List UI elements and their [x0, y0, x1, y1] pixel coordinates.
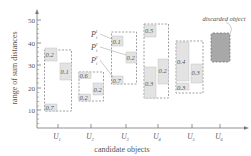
u1-instance-1-prob: 0.2 — [46, 51, 55, 58]
x-tick-u2: U2 — [86, 132, 94, 142]
x-tick-u4: U4 — [153, 132, 161, 142]
u4-instance-1-prob: 0.5 — [145, 27, 154, 34]
y-tick-20: 20 — [28, 85, 36, 93]
p-label-3: Pi3 — [90, 55, 98, 66]
x-tick-u5: U5 — [187, 132, 195, 142]
object-u6-discarded: discarded object — [203, 15, 246, 62]
u2-instance-2-prob: 0.2 — [94, 86, 103, 93]
object-u4: 0.5 0.3 0.2 — [144, 24, 169, 98]
x-tick-u3: U3 — [121, 132, 129, 142]
x-tick-u6: U6 — [215, 132, 223, 142]
y-tick-10: 10 — [28, 107, 36, 115]
u5-instance-1-prob: 0.4 — [177, 58, 186, 65]
y-tick-labels: 50 40 30 20 10 — [28, 17, 36, 115]
u5-instance-3-prob: 0.3 — [177, 84, 186, 91]
diagram-canvas: 50 40 30 20 10 range of sum distances U1… — [0, 0, 251, 156]
u3-instance-2-prob: 0.2 — [127, 54, 136, 61]
y-axis — [35, 9, 41, 128]
discarded-annotation: discarded object — [203, 15, 246, 22]
object-u2: 0.6 0.2 0.2 — [79, 72, 104, 102]
y-tick-30: 30 — [28, 62, 36, 70]
x-axis-label: candidate objects — [94, 145, 149, 154]
object-u3: 0.1 0.2 0.7 Pi1 Pi2 Pi3 — [90, 29, 137, 84]
u4-instance-3-prob: 0.2 — [159, 67, 168, 74]
x-tick-labels: U1 U2 U3 U4 U5 U6 — [53, 132, 223, 142]
u3-instance-3-prob: 0.7 — [113, 77, 122, 84]
u2-instance-1-prob: 0.6 — [80, 72, 89, 79]
instance-labels: Pi1 Pi2 Pi3 — [90, 29, 98, 66]
u3-instance-1-prob: 0.1 — [113, 38, 121, 45]
y-tick-40: 40 — [28, 40, 36, 48]
u1-instance-3-prob: 0.7 — [46, 104, 55, 111]
p-label-2: Pi2 — [90, 42, 98, 53]
x-axis — [37, 124, 249, 130]
y-axis-label: range of sum distances — [10, 31, 19, 104]
y-tick-50: 50 — [28, 17, 36, 25]
object-u5: 0.4 0.3 0.3 — [176, 41, 203, 93]
x-tick-u1: U1 — [53, 132, 61, 142]
p-label-1: Pi1 — [90, 29, 98, 40]
u1-instance-2-prob: 0.1 — [61, 68, 69, 75]
u5-instance-2-prob: 0.3 — [192, 69, 201, 76]
u4-instance-2-prob: 0.3 — [145, 80, 154, 87]
u2-instance-3-prob: 0.2 — [80, 94, 89, 101]
object-u1: 0.2 0.1 0.7 — [45, 48, 72, 111]
